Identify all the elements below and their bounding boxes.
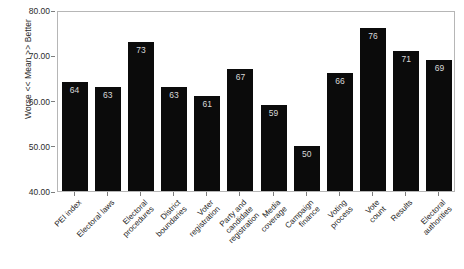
x-axis-tick-mark [372, 192, 373, 196]
x-axis-tick-mark [339, 192, 340, 196]
x-axis-tick-mark [206, 192, 207, 196]
bar-value-label: 63 [161, 90, 187, 100]
bar: 63 [161, 87, 187, 191]
bar-value-label: 64 [62, 85, 88, 95]
y-axis-tick-mark [51, 101, 55, 102]
x-axis-tick-mark [239, 192, 240, 196]
x-axis-tick-mark [74, 192, 75, 196]
x-axis-tick-mark [306, 192, 307, 196]
bar-value-label: 61 [194, 99, 220, 109]
bar: 67 [227, 69, 253, 191]
x-axis-tick-mark [405, 192, 406, 196]
x-axis-tick-mark [173, 192, 174, 196]
y-axis-tick-mark [51, 192, 55, 193]
bar-value-label: 50 [294, 149, 320, 159]
bar-value-label: 67 [227, 72, 253, 82]
y-axis-tick-label: 70.00 [8, 51, 50, 61]
y-axis-tick-label: 80.00 [8, 6, 50, 16]
bar: 69 [426, 60, 452, 191]
bar: 73 [128, 42, 154, 191]
x-axis-tick-mark [140, 192, 141, 196]
x-axis-tick-mark [438, 192, 439, 196]
bar: 66 [327, 73, 353, 191]
x-axis-tick-mark [273, 192, 274, 196]
plot-area: 646373636167595066767169 [57, 11, 455, 192]
y-axis-tick-label: 60.00 [8, 97, 50, 107]
bar: 71 [393, 51, 419, 191]
bar: 64 [62, 82, 88, 191]
y-axis-tick-mark [51, 146, 55, 147]
bar-value-label: 76 [360, 31, 386, 41]
bar-value-label: 66 [327, 76, 353, 86]
y-axis-tick-labels: 40.0050.0060.0070.0080.00 [0, 0, 50, 269]
bar-value-label: 73 [128, 45, 154, 55]
y-axis-tick-mark [51, 56, 55, 57]
bar: 59 [261, 105, 287, 191]
bar: 50 [294, 146, 320, 191]
bar-chart-figure: Worse << Mean >> Better 40.0050.0060.007… [0, 0, 464, 269]
bar-value-label: 69 [426, 63, 452, 73]
bar-series: 646373636167595066767169 [58, 12, 454, 191]
bar-value-label: 71 [393, 54, 419, 64]
y-axis-tick-mark [51, 11, 55, 12]
x-axis-tick-mark [107, 192, 108, 196]
bar-value-label: 59 [261, 108, 287, 118]
y-axis-tick-label: 50.00 [8, 142, 50, 152]
bar: 61 [194, 96, 220, 191]
bar: 63 [95, 87, 121, 191]
bar-value-label: 63 [95, 90, 121, 100]
bar: 76 [360, 28, 386, 191]
y-axis-tick-label: 40.00 [8, 187, 50, 197]
